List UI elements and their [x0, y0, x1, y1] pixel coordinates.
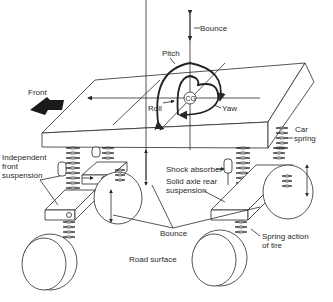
front-left-wheel	[22, 234, 77, 290]
front-arrow-icon	[30, 97, 64, 115]
front-label: Front	[28, 88, 47, 97]
rear-left-wheel	[192, 230, 247, 286]
vehicle-dynamics-diagram: CG Bounce Pitch Roll Yaw Front Car sprin…	[0, 0, 333, 302]
spring-tire-label-1: Spring action	[262, 232, 309, 241]
independent-front-label-1: Independent	[2, 153, 47, 162]
pitch-label: Pitch	[162, 49, 180, 58]
cg-label: CG	[186, 95, 197, 102]
bounce-label-bottom: Bounce	[160, 229, 188, 238]
road-surface-label: Road surface	[129, 255, 177, 264]
yaw-label: Yaw	[222, 104, 237, 113]
rear-tire-spring	[235, 221, 247, 233]
rear-right-wheel	[263, 165, 313, 219]
solid-axle-label-1: Solid axle rear	[166, 177, 217, 186]
car-spring-label-2: spring	[294, 134, 316, 143]
solid-axle-label-2: suspension	[166, 186, 206, 195]
independent-front-label-3: suspension	[2, 171, 42, 180]
shock-absorber	[224, 159, 232, 173]
front-tire-spring	[63, 221, 75, 238]
roll-label: Roll	[148, 104, 162, 113]
independent-front-label-2: front	[2, 162, 19, 171]
car-spring-label-1: Car	[295, 125, 308, 134]
spring-tire-label-2: of tire	[262, 241, 283, 250]
bounce-label-top: Bounce	[200, 24, 228, 33]
shock-absorber-label: Shock absorber	[166, 165, 222, 174]
